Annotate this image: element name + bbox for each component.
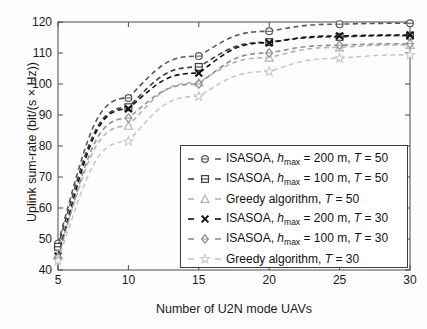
y-tick-label: 120 [24,16,52,28]
data-point-diamond [195,80,202,88]
legend-item[interactable]: ISASOA, hmax = 100 m, T = 30 [181,229,407,249]
legend-label: Greedy algorithm, T = 30 [226,253,359,265]
data-point-circle [266,28,273,35]
data-point-cross [202,216,209,223]
legend-sample-diamond [186,230,224,248]
legend-sample-cross [186,210,224,228]
legend-item[interactable]: ISASOA, hmax = 200 m, T = 30 [181,209,407,229]
y-tick-label: 70 [24,171,52,183]
legend-sample-triangle [186,190,224,208]
x-tick-label: 10 [108,274,148,286]
chart-figure: Uplink sum-rate (bit/(s × Hz)) Number of… [0,0,427,329]
y-tick-label-wrap: 40 [22,264,52,265]
data-point-circle [202,156,209,163]
y-tick-label-wrap: 90 [22,109,52,110]
x-tick-label: 25 [320,274,360,286]
legend-sample-circle [186,150,224,168]
star-marker [406,50,415,59]
y-tick-label-wrap: 60 [22,202,52,203]
legend-sample-square [186,170,224,188]
legend-label: ISASOA, hmax = 200 m, T = 50 [226,152,388,166]
data-point-diamond [202,235,209,243]
x-tick-label: 30 [390,274,427,286]
data-point-star [124,137,133,146]
y-tick-label: 50 [24,233,52,245]
x-tick-label: 5 [38,274,78,286]
y-tick-label: 90 [24,109,52,121]
data-point-star [335,54,344,63]
data-point-star [194,92,203,101]
triangle-marker [201,195,209,202]
data-point-circle [407,20,414,27]
y-tick-label: 110 [24,47,52,59]
y-tick-label-wrap: 70 [22,171,52,172]
data-point-square [202,176,209,183]
star-marker [265,67,274,76]
data-point-triangle [201,195,209,202]
y-tick-label-wrap: 120 [22,16,52,17]
legend-item[interactable]: Greedy algorithm, T = 30 [181,249,407,269]
data-point-diamond [266,49,273,57]
legend-label: ISASOA, hmax = 100 m, T = 50 [226,172,388,186]
legend-item[interactable]: ISASOA, hmax = 200 m, T = 50 [181,149,407,169]
star-marker [335,54,344,63]
y-tick-label-wrap: 100 [22,78,52,79]
data-point-circle [195,53,202,60]
data-point-star [265,67,274,76]
data-point-square [195,64,202,71]
legend-label: ISASOA, hmax = 100 m, T = 30 [226,232,388,246]
star-marker [124,137,133,146]
y-tick-label-wrap: 80 [22,140,52,141]
legend-item[interactable]: ISASOA, hmax = 100 m, T = 50 [181,169,407,189]
chart-legend: ISASOA, hmax = 200 m, T = 50ISASOA, hmax… [180,145,408,268]
legend-label: ISASOA, hmax = 200 m, T = 30 [226,212,388,226]
data-point-circle [336,21,343,28]
legend-sample-star [186,250,224,268]
data-point-star [201,254,210,262]
x-tick-label: 20 [249,274,289,286]
y-tick-label: 60 [24,202,52,214]
data-point-star [406,50,415,59]
data-point-circle [125,95,132,102]
star-marker [194,92,203,101]
y-tick-label-wrap: 50 [22,233,52,234]
star-marker [201,254,210,262]
legend-label: Greedy algorithm, T = 50 [226,193,359,205]
y-tick-label-wrap: 110 [22,47,52,48]
y-tick-label: 80 [24,140,52,152]
x-tick-label: 15 [179,274,219,286]
y-tick-label: 100 [24,78,52,90]
data-point-diamond [125,114,132,122]
legend-item[interactable]: Greedy algorithm, T = 50 [181,189,407,209]
